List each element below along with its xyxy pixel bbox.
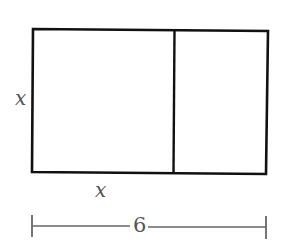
divider-line [174, 30, 175, 173]
geometry-diagram: x x 6 [0, 0, 290, 244]
total-width-label: 6 [131, 215, 148, 236]
outer-rectangle [32, 29, 268, 174]
diagram-svg [0, 0, 290, 244]
left-side-label: x [15, 88, 26, 108]
bottom-segment-label: x [95, 180, 106, 200]
